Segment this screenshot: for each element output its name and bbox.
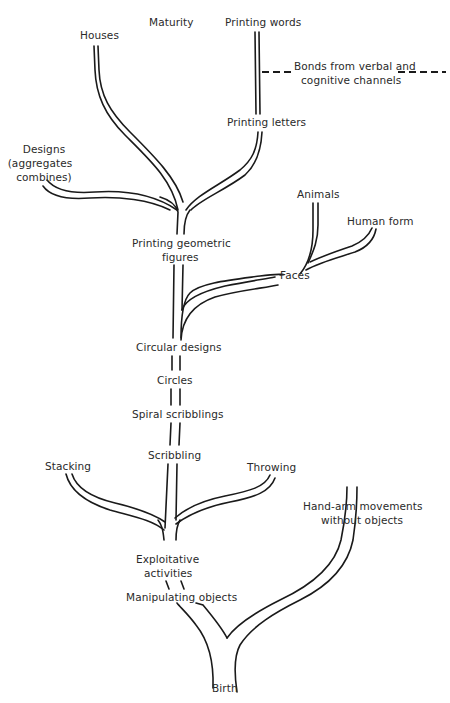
- label-human-form: Human form: [347, 215, 414, 228]
- label-circles: Circles: [157, 374, 193, 387]
- label-animals: Animals: [297, 188, 340, 201]
- branch-spiral-scribbling: [170, 423, 180, 445]
- branch-circular-geometric: [173, 265, 284, 338]
- label-printing-words: Printing words: [225, 16, 301, 29]
- branch-birth-manipulating: [177, 603, 227, 688]
- label-designs-line3: combines): [16, 171, 72, 184]
- branch-manipulating-exploitative: [166, 581, 184, 589]
- label-spiral-scribblings: Spiral scribblings: [132, 408, 224, 421]
- label-designs-line1: Designs: [23, 143, 65, 156]
- label-faces: Faces: [280, 269, 310, 282]
- branch-printing-letters: [186, 132, 262, 210]
- label-bonds-line1: Bonds from verbal and: [294, 60, 416, 73]
- branch-human-form: [306, 228, 376, 270]
- label-hand-arm-line1: Hand-arm movements: [303, 500, 423, 513]
- branch-throwing: [175, 475, 275, 524]
- label-printing-letters: Printing letters: [227, 116, 306, 129]
- label-maturity: Maturity: [149, 16, 194, 29]
- label-birth: Birth: [212, 682, 238, 695]
- label-printing-geometric-line1: Printing geometric: [132, 237, 231, 250]
- branch-printing-words: [255, 32, 260, 114]
- label-scribbling: Scribbling: [148, 449, 201, 462]
- label-designs-line2: (aggregates: [8, 157, 73, 170]
- label-circular-designs: Circular designs: [136, 341, 222, 354]
- branch-faces: [181, 277, 278, 340]
- label-houses: Houses: [80, 29, 119, 42]
- branch-circles-spiral: [171, 389, 180, 405]
- label-printing-geometric-line2: figures: [162, 251, 199, 264]
- branch-designs: [43, 180, 177, 210]
- label-bonds-line2: cognitive channels: [301, 74, 401, 87]
- branch-circular-circles: [172, 356, 180, 370]
- label-hand-arm-line2: without objects: [321, 514, 403, 527]
- branch-houses: [94, 46, 183, 210]
- branch-animals: [300, 203, 318, 274]
- branch-stacking: [66, 474, 165, 530]
- label-exploitative-line2: activities: [144, 567, 192, 580]
- label-stacking: Stacking: [45, 460, 91, 473]
- label-manipulating-objects: Manipulating objects: [126, 591, 237, 604]
- label-exploitative-line1: Exploitative: [136, 553, 199, 566]
- label-throwing: Throwing: [247, 461, 296, 474]
